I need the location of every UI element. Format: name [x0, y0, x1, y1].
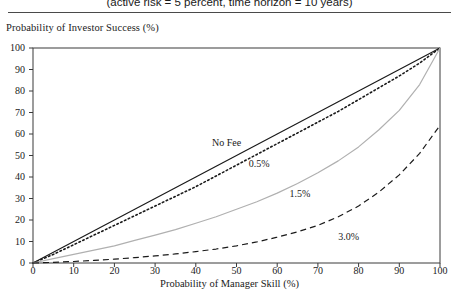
x-tick-label: 40 [181, 266, 211, 276]
chart-figure: (active risk = 5 percent, time horizon =… [0, 0, 459, 297]
x-tick-label: 50 [222, 266, 252, 276]
curve-label-1-5-: 1.5% [289, 189, 310, 199]
y-tick-label: 30 [0, 194, 25, 204]
plot-canvas [0, 0, 459, 297]
x-tick-label: 20 [99, 266, 129, 276]
curve-label-no-fee: No Fee [212, 138, 241, 148]
y-tick-label: 50 [0, 151, 25, 161]
y-tick-label: 80 [0, 86, 25, 96]
x-tick-label: 70 [303, 266, 333, 276]
x-tick-label: 10 [59, 266, 89, 276]
y-tick-label: 40 [0, 172, 25, 182]
x-tick-label: 100 [425, 266, 455, 276]
y-tick-label: 100 [0, 43, 25, 53]
x-tick-label: 30 [140, 266, 170, 276]
y-tick-label: 60 [0, 129, 25, 139]
y-tick-label: 90 [0, 65, 25, 75]
curve-label-3-0-: 3.0% [338, 232, 359, 242]
y-tick-label: 10 [0, 237, 25, 247]
x-tick-label: 60 [262, 266, 292, 276]
x-tick-label: 80 [344, 266, 374, 276]
x-tick-label: 0 [18, 266, 48, 276]
curve-no-fee [33, 48, 440, 263]
curves-group [33, 48, 440, 263]
y-tick-label: 20 [0, 215, 25, 225]
y-tick-label: 70 [0, 108, 25, 118]
curve-label-0-5-: 0.5% [249, 159, 270, 169]
x-tick-label: 90 [384, 266, 414, 276]
